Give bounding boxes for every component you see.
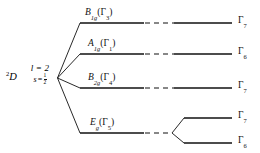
spin-denominator: 2 bbox=[44, 80, 47, 86]
right-label-b1g-g7: Γ7 bbox=[238, 16, 247, 26]
gamma-subscript: 7 bbox=[244, 22, 247, 29]
paren-close: ) bbox=[112, 72, 115, 82]
spin-value-fraction: 12 bbox=[44, 73, 47, 86]
gamma-symbol: Γ bbox=[238, 15, 244, 25]
right-label-b2g-g7: Γ7 bbox=[238, 81, 247, 91]
term-symbol-block: 2D l = 2 s=12 bbox=[6, 62, 58, 92]
label-level-b1g: B1g(Γ3) bbox=[85, 8, 112, 18]
label-level-a1g: A1g(Γ1) bbox=[88, 39, 115, 49]
irrep-subscript: 2g bbox=[94, 79, 101, 86]
paren-close: ) bbox=[112, 38, 115, 48]
gamma-symbol: Γ bbox=[238, 135, 244, 145]
right-label-a1g-g6: Γ6 bbox=[238, 47, 247, 57]
label-level-eg: Eg(Γ5) bbox=[90, 118, 114, 128]
gamma-subscript: 6 bbox=[244, 53, 247, 60]
spin-symbol: s bbox=[34, 75, 37, 84]
paren-close: ) bbox=[111, 117, 114, 127]
gamma-subscript: 5 bbox=[108, 124, 111, 131]
gamma-symbol: Γ bbox=[102, 117, 108, 127]
right-label-eg-g7: Γ7 bbox=[238, 111, 247, 121]
gamma-subscript: 1 bbox=[109, 45, 112, 52]
paren-close: ) bbox=[109, 7, 112, 17]
gamma-subscript: 7 bbox=[244, 117, 247, 124]
gamma-symbol: Γ bbox=[238, 110, 244, 120]
term-symbol-D: 2D bbox=[6, 71, 17, 82]
fan-line-b1g bbox=[58, 23, 81, 78]
gamma-symbol: Γ bbox=[238, 46, 244, 56]
irrep-subscript: g bbox=[96, 124, 99, 131]
right-label-eg-g6: Γ6 bbox=[238, 136, 247, 146]
fork-line-lower bbox=[172, 133, 184, 143]
fan-line-a1g bbox=[58, 54, 81, 78]
quantum-number-stack: l = 2 s=12 bbox=[23, 63, 57, 86]
gamma-subscript: 4 bbox=[109, 79, 112, 86]
irrep-letter: B bbox=[88, 72, 94, 82]
irrep-subscript: 1g bbox=[91, 14, 98, 21]
irrep-letter: A bbox=[88, 38, 94, 48]
spin-quantum-number: s=12 bbox=[23, 73, 57, 86]
gamma-subscript: 7 bbox=[244, 87, 247, 94]
fork-line-upper bbox=[172, 118, 184, 133]
label-level-b2g: B2g(Γ4) bbox=[88, 73, 115, 83]
energy-level-diagram: 2D l = 2 s=12 B1g(Γ3) A1g(Γ1) B2g(Γ4) Eg… bbox=[0, 0, 260, 153]
spin-equals: = bbox=[38, 75, 43, 84]
irrep-subscript: 1g bbox=[94, 45, 101, 52]
gamma-symbol: Γ bbox=[238, 80, 244, 90]
irrep-letter: E bbox=[90, 117, 96, 127]
irrep-letter: B bbox=[85, 7, 91, 17]
spin-numerator: 1 bbox=[44, 73, 47, 79]
gamma-subscript: 3 bbox=[106, 14, 109, 21]
term-letter: D bbox=[9, 71, 17, 82]
gamma-subscript: 6 bbox=[244, 142, 247, 149]
